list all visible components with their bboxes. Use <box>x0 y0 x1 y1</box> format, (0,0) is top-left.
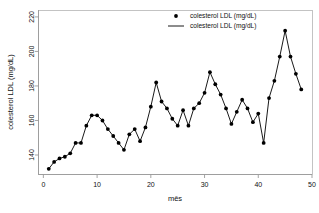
data-point[interactable] <box>197 101 201 105</box>
y-tick-label: 180 <box>28 80 35 92</box>
data-point[interactable] <box>262 141 266 145</box>
data-point[interactable] <box>278 55 282 59</box>
data-point[interactable] <box>176 124 180 128</box>
x-tick-label: 30 <box>201 181 209 188</box>
data-point[interactable] <box>219 93 223 97</box>
data-point[interactable] <box>251 120 255 124</box>
data-point[interactable] <box>208 70 212 74</box>
x-tick-label: 50 <box>308 181 316 188</box>
data-point[interactable] <box>79 141 83 145</box>
data-point[interactable] <box>240 98 244 102</box>
y-tick-label: 160 <box>28 115 35 127</box>
data-point[interactable] <box>149 105 153 109</box>
y-tick-label: 220 <box>28 11 35 23</box>
data-point[interactable] <box>52 160 56 164</box>
legend-label: colesterol LDL (mg/dL) <box>190 12 256 20</box>
data-point[interactable] <box>299 88 303 92</box>
legend-label: colesterol LDL (mg/dL) <box>190 22 256 30</box>
line-chart: 14016018020022001020304050colesterol LDL… <box>0 0 319 213</box>
y-axis-title: colesterol LDL (mg/dL) <box>6 54 15 130</box>
data-point[interactable] <box>74 141 78 145</box>
data-point[interactable] <box>144 125 148 129</box>
data-point[interactable] <box>192 107 196 111</box>
data-point[interactable] <box>283 29 287 33</box>
chart-container: 14016018020022001020304050colesterol LDL… <box>0 0 319 213</box>
data-point[interactable] <box>213 82 217 86</box>
data-point[interactable] <box>181 108 185 112</box>
data-point[interactable] <box>90 113 94 117</box>
data-point[interactable] <box>235 110 239 114</box>
data-point[interactable] <box>84 124 88 128</box>
data-point[interactable] <box>133 127 137 131</box>
data-point[interactable] <box>267 96 271 100</box>
data-point[interactable] <box>111 134 115 138</box>
plot-frame <box>39 11 313 175</box>
data-point[interactable] <box>138 139 142 143</box>
data-point[interactable] <box>272 79 276 83</box>
data-point[interactable] <box>117 141 121 145</box>
data-point[interactable] <box>230 122 234 126</box>
data-point[interactable] <box>127 132 131 136</box>
data-point[interactable] <box>256 112 260 116</box>
y-tick-label: 200 <box>28 45 35 57</box>
data-point[interactable] <box>106 127 110 131</box>
data-point[interactable] <box>187 124 191 128</box>
data-point[interactable] <box>122 148 126 152</box>
x-tick-label: 10 <box>93 181 101 188</box>
x-tick-label: 0 <box>41 181 45 188</box>
y-tick-label: 140 <box>28 149 35 161</box>
data-point[interactable] <box>165 107 169 111</box>
data-point[interactable] <box>203 91 207 95</box>
data-point[interactable] <box>154 81 158 85</box>
series-line <box>49 31 302 169</box>
data-point[interactable] <box>68 151 72 155</box>
data-point[interactable] <box>294 72 298 76</box>
x-tick-label: 40 <box>254 181 262 188</box>
x-tick-label: 20 <box>147 181 155 188</box>
data-point[interactable] <box>95 113 99 117</box>
data-point[interactable] <box>289 55 293 59</box>
data-point[interactable] <box>224 107 228 111</box>
data-point[interactable] <box>246 107 250 111</box>
data-point[interactable] <box>160 100 164 104</box>
data-point[interactable] <box>58 157 62 161</box>
data-point[interactable] <box>63 155 67 159</box>
x-axis-title: mês <box>168 194 182 203</box>
legend-point-marker <box>174 14 178 18</box>
data-point[interactable] <box>47 167 51 171</box>
data-point[interactable] <box>170 117 174 121</box>
data-point[interactable] <box>101 119 105 123</box>
